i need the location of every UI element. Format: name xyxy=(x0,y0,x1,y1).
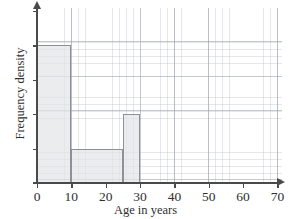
x-axis-tick xyxy=(209,183,210,188)
x-axis-tick xyxy=(277,183,278,188)
y-axis-tick xyxy=(33,11,38,12)
y-axis-tick xyxy=(33,80,38,81)
histogram-bar xyxy=(71,149,123,183)
y-axis-tick xyxy=(33,45,38,46)
x-axis-tick xyxy=(174,183,175,188)
x-axis-line xyxy=(33,182,279,184)
y-axis-line xyxy=(36,7,38,183)
x-axis-tick xyxy=(37,183,38,188)
y-axis-tick xyxy=(33,114,38,115)
plot-area xyxy=(37,8,282,183)
histogram-figure: 010203040506070 Age in years Frequency d… xyxy=(0,0,291,219)
histogram-bar xyxy=(123,114,140,183)
x-axis-tick xyxy=(106,183,107,188)
x-axis-tick xyxy=(140,183,141,188)
y-axis-title: Frequency density xyxy=(13,14,28,174)
y-axis-arrow-icon xyxy=(33,1,41,9)
y-axis-tick xyxy=(33,149,38,150)
x-axis-tick xyxy=(71,183,72,188)
x-axis-title: Age in years xyxy=(0,203,291,218)
x-axis-tick xyxy=(243,183,244,188)
histogram-bar xyxy=(37,45,71,183)
bar-series xyxy=(37,8,282,183)
